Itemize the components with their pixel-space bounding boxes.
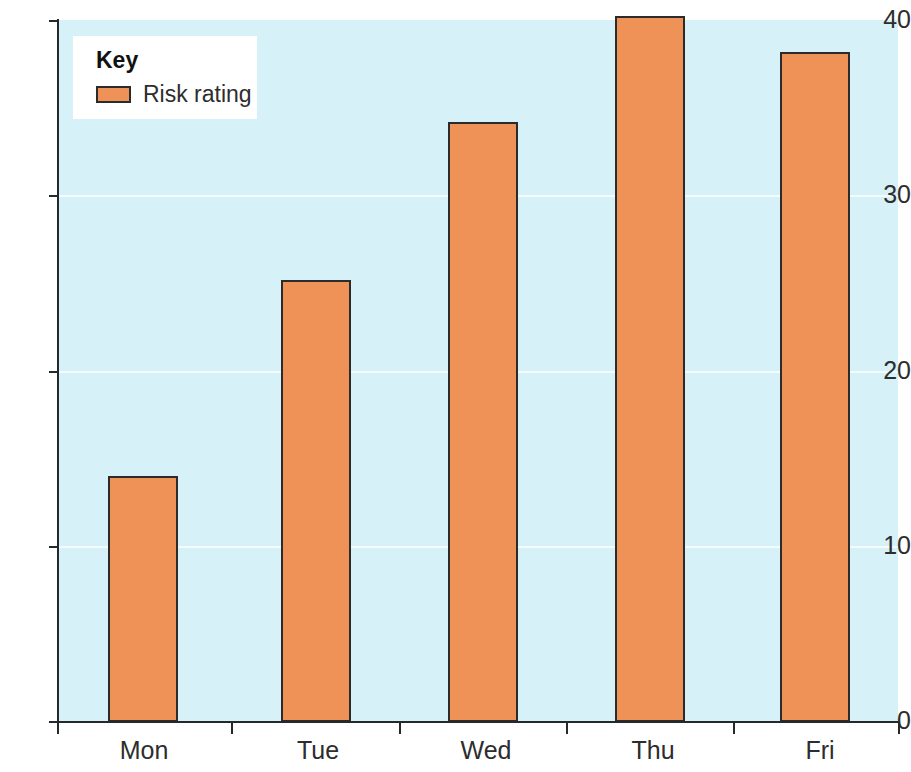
y-tick-30	[49, 195, 58, 197]
bar-mon	[108, 476, 178, 722]
x-tick-label-thu: Thu	[566, 737, 740, 765]
x-tick-4	[733, 722, 735, 734]
x-tick-2	[399, 722, 401, 734]
bar-wed	[448, 122, 518, 722]
y-tick-10	[49, 546, 58, 548]
y-tick-label-10: 10	[867, 533, 911, 558]
y-tick-label-30: 30	[867, 182, 911, 207]
x-tick-label-tue: Tue	[231, 737, 405, 765]
bar-thu	[615, 16, 685, 722]
legend: Key Risk rating	[73, 36, 257, 119]
y-tick-label-40: 40	[867, 7, 911, 32]
legend-title: Key	[96, 48, 257, 73]
x-tick-0	[57, 722, 59, 734]
y-tick-40	[49, 20, 58, 22]
bar-tue	[281, 280, 351, 722]
x-tick-label-fri: Fri	[733, 737, 907, 765]
x-tick-5	[898, 722, 900, 734]
bar-chart: 40 30 20 10 0 Mon Tue Wed Thu Fri Key Ri…	[0, 0, 911, 772]
risk-rating-swatch-icon	[96, 86, 131, 103]
plot-area	[59, 20, 898, 722]
x-tick-label-wed: Wed	[399, 737, 573, 765]
x-axis-line	[57, 721, 900, 723]
x-tick-3	[566, 722, 568, 734]
legend-entry-label: Risk rating	[143, 83, 252, 106]
legend-entry-risk-rating: Risk rating	[96, 83, 257, 106]
y-tick-20	[49, 371, 58, 373]
y-tick-label-0: 0	[867, 708, 911, 733]
x-tick-1	[231, 722, 233, 734]
bar-fri	[780, 52, 850, 722]
x-tick-label-mon: Mon	[57, 737, 231, 765]
y-tick-label-20: 20	[867, 358, 911, 383]
